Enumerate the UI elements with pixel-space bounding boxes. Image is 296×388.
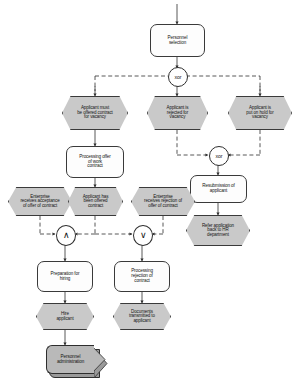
event-applicant-has-been-offered-wrap: Applicant has been offered contract [68, 187, 123, 216]
event-documents-transmitted-label: Documents transmitted to applicant [114, 310, 170, 324]
connector-and-label: ∧ [63, 231, 70, 240]
event-hire-applicant-label: Hire applicant [37, 312, 93, 321]
event-applicant-has-been-offered[interactable]: Applicant has been offered contract [68, 187, 123, 216]
event-applicant-on-hold[interactable]: Applicant is put on hold for vacancy [228, 96, 292, 130]
connector-xor-second[interactable]: xor [209, 146, 229, 166]
process-personnel-administration[interactable]: Personnel administration [46, 345, 94, 374]
event-documents-transmitted[interactable]: Documents transmitted to applicant [113, 303, 171, 330]
event-applicant-rejected-label: Applicant is rejected for vacancy [148, 106, 207, 120]
connector-xor-top-label: xor [174, 74, 181, 80]
connector-or[interactable]: ∨ [133, 225, 153, 246]
function-preparation-hiring[interactable]: Preparation for hiring [37, 261, 93, 292]
event-applicant-must-be-offered-wrap: Applicant must be offered contract for v… [62, 96, 128, 130]
function-processing-rejection-label: Processing rejection of contract [115, 269, 169, 283]
connector-and[interactable]: ∧ [56, 225, 76, 246]
event-refer-application[interactable]: Refer application back to HR department [186, 215, 250, 246]
connector-or-label: ∨ [140, 231, 147, 240]
event-enterprise-rejection-wrap: Enterprise receives rejection of offer o… [131, 187, 195, 216]
function-preparation-hiring-label: Preparation for hiring [38, 272, 92, 281]
event-enterprise-acceptance[interactable]: Enterprise receives acceptance of offer … [8, 187, 72, 216]
event-refer-application-wrap: Refer application back to HR department [186, 215, 250, 246]
epc-diagram-canvas: Personnel selection xor Applicant must b… [0, 0, 296, 388]
event-hire-applicant-wrap: Hire applicant [36, 303, 94, 330]
function-resubmission-label: Resubmission of applicant [191, 184, 246, 193]
process-personnel-administration-label: Personnel administration [47, 355, 94, 364]
event-enterprise-acceptance-wrap: Enterprise receives acceptance of offer … [8, 187, 72, 216]
event-enterprise-acceptance-label: Enterprise receives acceptance of offer … [9, 195, 71, 209]
event-enterprise-rejection[interactable]: Enterprise receives rejection of offer o… [131, 187, 195, 216]
event-applicant-on-hold-wrap: Applicant is put on hold for vacancy [228, 96, 292, 130]
connector-xor-second-label: xor [215, 153, 222, 159]
event-applicant-on-hold-label: Applicant is put on hold for vacancy [229, 106, 291, 120]
function-processing-offer[interactable]: Processing offer of work contract [66, 146, 124, 178]
event-applicant-rejected-wrap: Applicant is rejected for vacancy [147, 96, 208, 130]
event-enterprise-rejection-label: Enterprise receives rejection of offer o… [132, 195, 194, 209]
connector-xor-top[interactable]: xor [168, 67, 188, 87]
event-hire-applicant[interactable]: Hire applicant [36, 303, 94, 330]
event-documents-transmitted-wrap: Documents transmitted to applicant [113, 303, 171, 330]
function-resubmission[interactable]: Resubmission of applicant [190, 175, 247, 203]
function-processing-offer-label: Processing offer of work contract [67, 155, 123, 169]
event-refer-application-label: Refer application back to HR department [187, 224, 249, 238]
event-applicant-must-be-offered[interactable]: Applicant must be offered contract for v… [62, 96, 128, 130]
function-personnel-selection-label: Personnel selection [151, 36, 204, 45]
function-processing-rejection[interactable]: Processing rejection of contract [114, 261, 170, 292]
event-applicant-rejected[interactable]: Applicant is rejected for vacancy [147, 96, 208, 130]
event-applicant-has-been-offered-label: Applicant has been offered contract [69, 195, 122, 209]
function-personnel-selection[interactable]: Personnel selection [150, 24, 205, 57]
event-applicant-must-be-offered-label: Applicant must be offered contract for v… [63, 106, 127, 120]
